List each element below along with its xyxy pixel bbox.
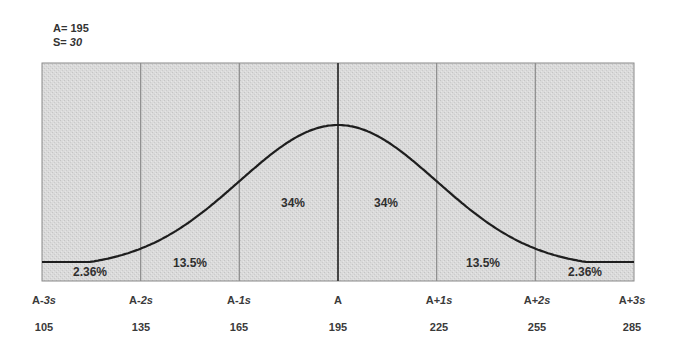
region-percent-label: 2.36% (568, 265, 602, 279)
region-percent-label: 13.5% (466, 256, 500, 270)
region-percent-label: 34% (281, 196, 305, 210)
region-percent-label: 2.36% (73, 265, 107, 279)
x-tick-value: 135 (132, 321, 150, 333)
x-tick-value: 195 (329, 321, 347, 333)
x-tick-label: A+2s (524, 294, 551, 306)
x-tick-label: A-3s (32, 294, 56, 306)
x-tick-value: 285 (623, 321, 641, 333)
x-tick-value: 255 (528, 321, 546, 333)
x-tick-label: A-2s (129, 294, 153, 306)
region-percent-label: 34% (374, 196, 398, 210)
x-tick-label: A (334, 294, 342, 306)
x-tick-label: A+3s (619, 294, 646, 306)
x-tick-value: 225 (430, 321, 448, 333)
x-tick-value: 105 (35, 321, 53, 333)
x-tick-label: A+1s (426, 294, 453, 306)
x-tick-value: 165 (230, 321, 248, 333)
region-percent-label: 13.5% (173, 256, 207, 270)
x-tick-label: A-1s (227, 294, 251, 306)
